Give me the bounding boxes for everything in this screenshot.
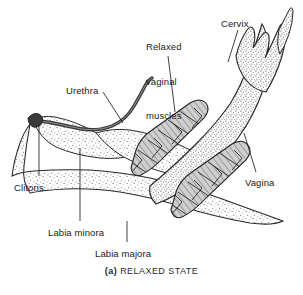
label-line: muscles	[146, 110, 182, 122]
clitoris-tip	[28, 114, 43, 128]
figure-caption: (a) RELAXED STATE	[0, 266, 303, 276]
label-vagina: Vagina	[245, 177, 274, 189]
label-clitoris: Clitoris	[14, 182, 44, 194]
caption-text: RELAXED STATE	[120, 266, 198, 276]
label-urethra: Urethra	[66, 85, 98, 97]
label-labia-majora: Labia majora	[95, 248, 151, 260]
label-line: Relaxed	[146, 41, 182, 53]
label-relaxed-vaginal-muscles: Relaxed vaginal muscles	[146, 18, 182, 133]
caption-tag: (a)	[105, 266, 117, 276]
label-labia-minora: Labia minora	[48, 227, 104, 239]
label-line: vaginal	[146, 76, 182, 88]
label-cervix: Cervix	[221, 18, 249, 30]
